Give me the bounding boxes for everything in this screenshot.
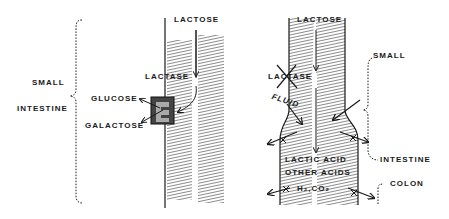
label-small-right: SMALL	[373, 52, 406, 60]
label-galactose: GALACTOSE	[85, 122, 144, 130]
label-lactose-left: LACTOSE	[174, 16, 219, 24]
label-colon: COLON	[390, 180, 424, 188]
label-small-left: SMALL	[32, 79, 65, 87]
colon-bracket	[378, 184, 384, 204]
label-gases: H₂,CO₂	[297, 185, 330, 193]
label-lactose-right: LACTOSE	[297, 16, 342, 24]
label-other-acids: OTHER ACIDS	[285, 169, 351, 177]
label-intestine-left: INTESTINE	[17, 105, 68, 113]
label-lactase-left: LACTASE	[145, 73, 189, 81]
small-intestine-brace-left	[70, 20, 82, 203]
label-lactase-deficient: LACTASE	[268, 73, 312, 81]
label-glucose: GLUCOSE	[91, 95, 138, 103]
label-intestine-right: INTESTINE	[380, 156, 431, 164]
label-lactic-acid: LACTIC ACID	[285, 156, 347, 164]
small-intestine-brace-right	[363, 58, 378, 160]
